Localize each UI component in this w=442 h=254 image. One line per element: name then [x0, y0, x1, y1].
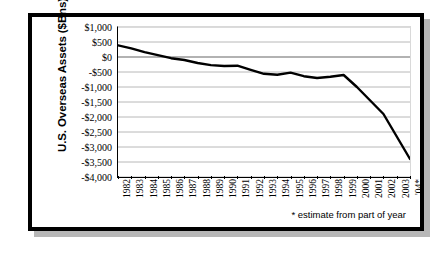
x-axis-tick-label: 1983: [135, 179, 145, 198]
x-axis-tick-label: 1986: [175, 179, 185, 198]
x-axis-tick-label: 1999: [348, 179, 358, 198]
x-axis-tick-label: 1994: [281, 179, 291, 198]
x-axis-tick-mark: [211, 176, 212, 179]
x-axis-tick-mark: [198, 176, 199, 179]
x-axis-tick-mark: [264, 176, 265, 179]
y-axis-tick-label: -$4,000: [81, 172, 112, 183]
y-axis-tick-label: $500: [92, 37, 112, 48]
x-axis-tick-mark: [145, 176, 146, 179]
x-axis-tick-label: 1989: [215, 179, 225, 198]
x-axis-tick-label: 2001: [374, 179, 384, 198]
x-axis-tick-mark: [330, 176, 331, 179]
chart-canvas: [118, 27, 410, 177]
x-axis-tick-label: 2000: [361, 179, 371, 198]
y-axis-tick-label: -$1,000: [81, 82, 112, 93]
y-axis-tick-label: -$500: [89, 67, 112, 78]
x-axis-tick-label: 1996: [308, 179, 318, 198]
x-axis-tick-label: 1995: [295, 179, 305, 198]
y-axis-tick-label: -$1,500: [81, 97, 112, 108]
x-axis-tick-label: 1997: [321, 179, 331, 198]
estimate-footnote: * estimate from part of year: [291, 209, 406, 220]
x-axis-tick-label: 1993: [268, 179, 278, 198]
x-axis-tick-mark: [317, 176, 318, 179]
x-axis-tick-mark: [410, 176, 411, 179]
x-axis-tick-label: 1984: [149, 179, 159, 198]
x-axis-tick-label: '04*: [414, 179, 424, 195]
plot-area: [117, 26, 411, 178]
y-axis-tick-label: $0: [102, 52, 112, 63]
x-axis-tick-label: 1988: [202, 179, 212, 198]
x-axis-tick-mark: [344, 176, 345, 179]
y-axis-tick-label: -$2,500: [81, 127, 112, 138]
x-axis-tick-mark: [237, 176, 238, 179]
x-axis-tick-label: 2003: [401, 179, 411, 198]
y-axis-tick-label: -$3,000: [81, 142, 112, 153]
x-axis-tick-mark: [397, 176, 398, 179]
x-axis-tick-mark: [357, 176, 358, 179]
x-axis-tick-label: 2002: [387, 179, 397, 198]
chart-figure: U.S. Overseas Assets ($Bns) $1,000$500$0…: [28, 13, 424, 231]
x-axis-tick-label: 1990: [228, 179, 238, 198]
x-axis-tick-label: 1991: [241, 179, 251, 198]
x-axis-tick-mark: [184, 176, 185, 179]
x-axis-tick-mark: [251, 176, 252, 179]
x-axis-tick-label: 1982: [122, 179, 132, 198]
x-axis-tick-mark: [158, 176, 159, 179]
x-axis-tick-mark: [304, 176, 305, 179]
x-axis-tick-mark: [224, 176, 225, 179]
y-axis-tick-labels: $1,000$500$0-$500-$1,000-$1,500-$2,000-$…: [56, 26, 112, 178]
y-axis-tick-label: $1,000: [85, 22, 113, 33]
x-axis-tick-label: 1998: [334, 179, 344, 198]
x-axis-tick-mark: [291, 176, 292, 179]
x-axis-tick-label: 1992: [255, 179, 265, 198]
x-axis-tick-mark: [277, 176, 278, 179]
x-axis-tick-mark: [370, 176, 371, 179]
x-axis-tick-mark: [131, 176, 132, 179]
y-axis-tick-label: -$3,500: [81, 157, 112, 168]
y-axis-tick-label: -$2,000: [81, 112, 112, 123]
x-axis-tick-mark: [118, 176, 119, 179]
x-axis-tick-mark: [383, 176, 384, 179]
gridlines: [118, 27, 410, 177]
x-axis-tick-label: 1985: [162, 179, 172, 198]
x-axis-tick-label: 1987: [188, 179, 198, 198]
x-axis-tick-mark: [171, 176, 172, 179]
